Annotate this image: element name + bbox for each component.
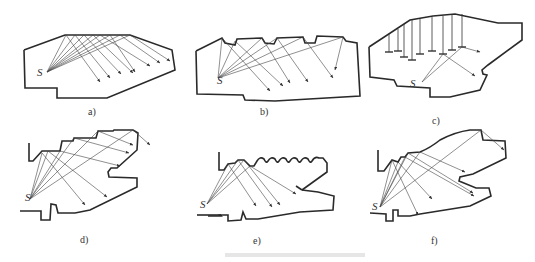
sound-ray [30, 151, 120, 199]
sound-ray [47, 35, 110, 78]
panel-label: b) [260, 106, 268, 118]
source-label: S [37, 66, 43, 78]
ray-group [30, 130, 150, 205]
reflector-panels [385, 14, 466, 60]
panel-e: S e) [197, 152, 334, 247]
sound-ray [218, 38, 270, 91]
source-label: S [217, 74, 223, 86]
panel-d: S d) [20, 130, 150, 246]
sound-ray [422, 54, 475, 82]
sound-ray [422, 47, 480, 82]
ray-group [380, 130, 504, 215]
upper-wall [219, 152, 327, 190]
ray-group [422, 47, 480, 82]
sound-ray [207, 160, 272, 207]
panel-b: S b) [196, 36, 360, 118]
source-label: S [372, 200, 378, 212]
acoustic-ceiling-diagram: S a) S b) S c) S d) S e) S f) [0, 0, 535, 262]
sound-ray [30, 151, 107, 199]
source-label: S [200, 198, 206, 210]
sound-ray [47, 35, 135, 72]
panel-label: a) [88, 106, 96, 118]
panel-label: e) [253, 235, 261, 247]
figure-caption [225, 253, 365, 257]
panel-a: S a) [24, 35, 175, 118]
source-label: S [410, 77, 416, 89]
hall-outline [24, 35, 175, 98]
panel-label: c) [432, 115, 440, 127]
sound-ray [207, 164, 256, 206]
sound-ray [47, 35, 160, 72]
ray-group [218, 37, 343, 91]
panel-c: S c) [369, 14, 522, 127]
panel-f: S f) [370, 130, 506, 247]
balcony-lip [296, 186, 302, 190]
source-label: S [25, 191, 31, 203]
panel-label: d) [80, 234, 88, 246]
panel-label: f) [431, 235, 438, 247]
sound-ray [380, 162, 432, 207]
ray-group [207, 160, 296, 207]
sound-ray [218, 41, 283, 86]
sound-ray [47, 35, 133, 73]
